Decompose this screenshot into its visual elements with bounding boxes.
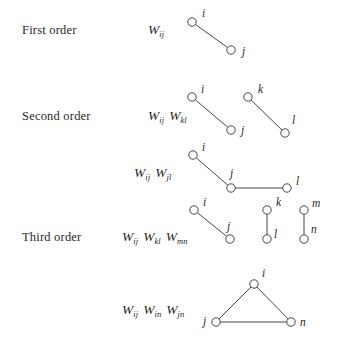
- graph-node-j: [227, 126, 235, 134]
- formula-weight-subscript: ij: [159, 115, 164, 125]
- formula-weight-symbol: W: [122, 302, 133, 317]
- graph-node-l: [263, 235, 271, 243]
- graph-node-label-j: j: [239, 124, 244, 137]
- graph-node-label-j: j: [225, 220, 230, 233]
- formula-weight-symbol: W: [134, 165, 145, 180]
- graph-node-i: [188, 93, 196, 101]
- formula-second-order-a: WijWkl: [148, 108, 187, 124]
- graph-node-j: [227, 184, 235, 192]
- formula-third-order-a: WijWklWmn: [122, 229, 188, 245]
- graph-first-order-edge-ij: ij: [0, 0, 343, 342]
- formula-weight-subscript: ij: [133, 236, 138, 246]
- graph-node-n: [287, 318, 295, 326]
- graph-node-i: [189, 151, 197, 159]
- graph-node-i: [190, 206, 198, 214]
- graph-edge-ij: [219, 287, 251, 319]
- graph-third-order-edge-mn: mn: [0, 0, 343, 342]
- graph-node-j: [227, 46, 235, 54]
- formula-weight-subscript: ij: [159, 29, 164, 39]
- graph-node-i: [250, 280, 258, 288]
- graph-second-order-edge-ij: ij: [0, 0, 343, 342]
- graph-node-label-l: l: [274, 228, 277, 240]
- formula-third-order-b: WijWinWjn: [122, 302, 184, 318]
- formula-weight-symbol: W: [155, 165, 166, 180]
- row-label-second-order-a: Second order: [22, 109, 91, 124]
- graph-edge-kl: [251, 100, 282, 130]
- formula-second-order-b: WijWjl: [134, 165, 171, 181]
- graph-node-label-i: i: [202, 141, 205, 153]
- graph-edge-ij: [195, 100, 228, 128]
- formula-weight-symbol: W: [166, 229, 177, 244]
- row-label-first-order: First order: [22, 23, 77, 38]
- graph-third-order-edge-ij: ij: [0, 0, 343, 342]
- formula-weight-symbol: W: [122, 229, 133, 244]
- graph-node-label-m: m: [312, 197, 320, 209]
- graph-node-label-k: k: [258, 83, 264, 95]
- graph-edge-ij: [196, 158, 228, 185]
- formula-weight-subscript: ij: [133, 309, 138, 319]
- graph-node-label-n: n: [300, 316, 306, 328]
- order-expansion-figure: First orderWijijSecond orderWijWklijklWi…: [0, 0, 343, 342]
- graph-node-label-l: l: [296, 175, 299, 187]
- graph-node-label-n: n: [311, 223, 317, 235]
- formula-weight-subscript: mn: [177, 236, 188, 246]
- formula-weight-subscript: kl: [180, 115, 186, 125]
- formula-weight-symbol: W: [169, 108, 180, 123]
- graph-node-j: [226, 235, 234, 243]
- graph-node-label-j: j: [201, 315, 206, 328]
- formula-weight-subscript: kl: [154, 236, 160, 246]
- formula-weight-subscript: in: [154, 309, 161, 319]
- graph-node-j: [212, 318, 220, 326]
- graph-second-order-edge-kl: kl: [0, 0, 343, 342]
- graph-node-label-j: j: [240, 45, 245, 58]
- graph-third-order-edge-kl: kl: [0, 0, 343, 342]
- formula-weight-symbol: W: [166, 302, 177, 317]
- graph-third-order-triangle-ijn: ijn: [0, 0, 343, 342]
- graph-edge-ij: [195, 24, 227, 47]
- graph-node-label-i: i: [202, 7, 205, 19]
- graph-edge-ij: [197, 213, 226, 237]
- graph-node-l: [281, 129, 289, 137]
- graph-edge-ni: [257, 287, 288, 319]
- graph-node-k: [263, 206, 271, 214]
- graph-node-m: [300, 206, 308, 214]
- formula-weight-symbol: W: [143, 302, 154, 317]
- row-label-third-order-a: Third order: [22, 230, 81, 245]
- formula-weight-symbol: W: [148, 22, 159, 37]
- graph-node-n: [300, 235, 308, 243]
- graph-node-l: [283, 184, 291, 192]
- graph-node-label-i: i: [262, 267, 265, 279]
- graph-node-label-l: l: [292, 114, 295, 126]
- graph-node-label-i: i: [203, 196, 206, 208]
- graph-node-label-j: j: [228, 167, 233, 180]
- formula-weight-symbol: W: [148, 108, 159, 123]
- graph-node-label-i: i: [201, 83, 204, 95]
- formula-first-order: Wij: [148, 22, 164, 38]
- formula-weight-subscript: jl: [166, 172, 171, 182]
- graph-node-k: [244, 93, 252, 101]
- graph-node-label-k: k: [276, 196, 282, 208]
- formula-weight-subscript: jn: [178, 309, 185, 319]
- graph-second-order-path-ijl: ijl: [0, 0, 343, 342]
- graph-node-i: [188, 18, 196, 26]
- formula-weight-subscript: ij: [145, 172, 150, 182]
- formula-weight-symbol: W: [143, 229, 154, 244]
